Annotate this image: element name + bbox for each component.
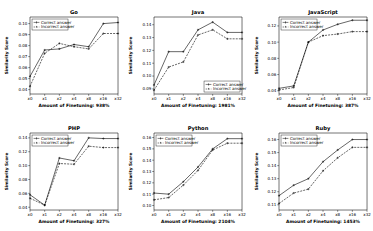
series-line-incorrect (30, 146, 118, 205)
y-tick-label: 0.12 (19, 149, 28, 154)
y-tick-label: 0.16 (143, 134, 152, 139)
y-tick-label: 0.13 (143, 168, 152, 173)
data-point-marker (117, 146, 119, 148)
series-line-incorrect (279, 147, 367, 203)
y-tick-label: 0.12 (143, 48, 152, 53)
x-tick-label: x0 (28, 96, 33, 101)
data-point-marker (153, 84, 155, 86)
data-point-marker (366, 30, 368, 32)
data-point-marker (153, 198, 155, 200)
y-tick-label: 0.09 (19, 32, 28, 37)
chart-panel-go: 0.040.050.060.070.080.090.10x0x1x2x4x8x1… (0, 0, 124, 116)
chart-canvas: 0.040.050.060.070.080.090.10x0x1x2x4x8x1… (0, 0, 124, 116)
x-tick-label: x0 (276, 96, 281, 101)
x-tick-label: x1 (167, 96, 172, 101)
y-tick-label: 0.06 (19, 190, 28, 195)
panel-title: Go (70, 9, 78, 15)
y-tick-label: 0.14 (143, 22, 152, 27)
y-tick-label: 0.16 (267, 136, 276, 141)
x-tick-label: x32 (114, 212, 122, 217)
x-tick-label: x2 (57, 212, 62, 217)
data-point-marker (117, 32, 119, 34)
x-axis-label: Amount of Finetuning: 2104% (161, 218, 236, 223)
y-tick-label: 0.14 (143, 157, 152, 162)
x-tick-label: x0 (152, 96, 157, 101)
y-tick-label: 0.08 (19, 43, 28, 48)
x-tick-label: x1 (291, 212, 296, 217)
y-axis-label: Similarity Score (253, 152, 258, 190)
x-tick-label: x4 (72, 96, 77, 101)
y-tick-label: 0.12 (267, 23, 276, 28)
data-point-marker (73, 46, 75, 48)
data-point-marker (117, 137, 119, 139)
y-tick-label: 0.04 (19, 204, 28, 209)
subplot-grid: 0.040.050.060.070.080.090.10x0x1x2x4x8x1… (0, 0, 373, 231)
panel-title: JavaScript (307, 9, 338, 16)
x-tick-label: x4 (196, 96, 201, 101)
x-tick-label: x0 (152, 212, 157, 217)
y-tick-label: 0.13 (267, 176, 276, 181)
x-tick-label: x0 (28, 212, 33, 217)
series-line-incorrect (30, 34, 118, 87)
panel-title: Ruby (315, 124, 330, 131)
x-tick-label: x32 (239, 212, 247, 217)
panel-title: Python (188, 124, 209, 131)
panel-title: Java (191, 9, 205, 16)
y-axis-label: Similarity Score (253, 37, 258, 75)
y-tick-label: 0.11 (143, 61, 152, 66)
y-tick-label: 0.08 (19, 176, 28, 181)
data-point-marker (292, 86, 294, 88)
legend-label-incorrect: Incorrect answer (213, 86, 247, 91)
x-tick-label: x16 (224, 212, 232, 217)
series-line-correct (30, 137, 118, 204)
data-point-marker (351, 19, 353, 21)
y-tick-label: 0.05 (19, 76, 28, 81)
x-tick-label: x1 (42, 212, 47, 217)
chart-canvas: 0.110.120.130.140.150.16x0x1x2x4x8x16x32… (249, 116, 373, 231)
panel-title: PHP (68, 124, 80, 130)
x-tick-label: x8 (335, 96, 340, 101)
data-point-marker (336, 23, 338, 25)
x-tick-label: x2 (306, 212, 311, 217)
x-tick-label: x32 (239, 96, 247, 101)
y-tick-label: 0.15 (267, 150, 276, 155)
x-axis-label: Amount of Finetuning: 1453% (286, 218, 361, 223)
x-tick-label: x0 (276, 212, 281, 217)
chart-panel-java: 0.090.100.110.120.130.14x0x1x2x4x8x16x32… (124, 0, 248, 116)
y-axis-label: Similarity Score (5, 152, 10, 190)
legend-label-incorrect: Incorrect answer (290, 24, 324, 29)
x-tick-label: x16 (224, 96, 232, 101)
x-tick-label: x8 (86, 212, 91, 217)
y-tick-label: 0.14 (19, 135, 28, 140)
series-line-correct (30, 23, 118, 77)
data-point-marker (102, 146, 104, 148)
data-point-marker (241, 38, 243, 40)
x-tick-label: x4 (72, 212, 77, 217)
data-point-marker (102, 137, 104, 139)
chart-canvas: 0.090.100.110.120.130.14x0x1x2x4x8x16x32… (124, 0, 248, 116)
chart-canvas: 0.040.060.080.100.12x0x1x2x4x8x16x32Amou… (249, 0, 373, 116)
x-tick-label: x32 (363, 96, 371, 101)
data-point-marker (29, 197, 31, 199)
x-tick-label: x4 (320, 212, 325, 217)
data-point-marker (241, 137, 243, 139)
y-tick-label: 0.10 (143, 202, 152, 207)
data-point-marker (73, 43, 75, 45)
data-point-marker (58, 156, 60, 158)
x-tick-label: x4 (320, 96, 325, 101)
y-tick-label: 0.08 (267, 56, 276, 61)
x-tick-label: x16 (348, 212, 356, 217)
y-axis-label: Similarity Score (129, 152, 134, 190)
x-tick-label: x8 (211, 212, 216, 217)
legend-label-incorrect: Incorrect answer (41, 24, 75, 29)
y-tick-label: 0.06 (267, 72, 276, 77)
legend-label-incorrect: Incorrect answer (165, 140, 199, 145)
chart-panel-ruby: 0.110.120.130.140.150.16x0x1x2x4x8x16x32… (249, 116, 373, 231)
x-axis-label: Amount of Finetuning: 387% (287, 103, 359, 108)
x-tick-label: x8 (335, 212, 340, 217)
data-point-marker (336, 33, 338, 35)
data-point-marker (58, 48, 60, 50)
series-line-incorrect (279, 32, 367, 90)
data-point-marker (241, 31, 243, 33)
series-line-incorrect (154, 143, 242, 200)
